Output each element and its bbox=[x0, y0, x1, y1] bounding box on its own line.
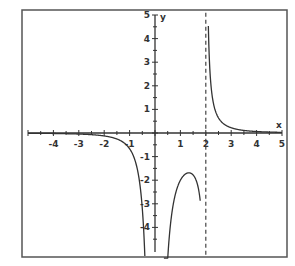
x-tick-label: 2 bbox=[203, 139, 209, 149]
function-graph: -4-3-2-11234554321-1-2-3-4 x y bbox=[0, 0, 295, 266]
y-tick-label: -1 bbox=[140, 152, 150, 162]
y-tick-label: 3 bbox=[144, 57, 150, 67]
x-tick-label: 5 bbox=[279, 139, 285, 149]
x-tick-label: 3 bbox=[228, 139, 234, 149]
x-axis-label: x bbox=[276, 120, 282, 130]
x-tick-label: -3 bbox=[74, 139, 84, 149]
x-tick-label: -1 bbox=[125, 139, 135, 149]
y-tick-label: -2 bbox=[140, 175, 150, 185]
y-axis-label: y bbox=[160, 12, 166, 22]
y-tick-label: -3 bbox=[140, 199, 150, 209]
y-tick-label: -4 bbox=[140, 222, 150, 232]
x-tick-label: 1 bbox=[177, 139, 183, 149]
y-tick-label: 1 bbox=[144, 104, 150, 114]
x-tick-label: -2 bbox=[99, 139, 109, 149]
y-tick-label: 4 bbox=[144, 34, 150, 44]
x-tick-label: 4 bbox=[253, 139, 259, 149]
x-tick-label: -4 bbox=[48, 139, 58, 149]
y-tick-label: 5 bbox=[144, 10, 150, 20]
y-tick-label: 2 bbox=[144, 81, 150, 91]
